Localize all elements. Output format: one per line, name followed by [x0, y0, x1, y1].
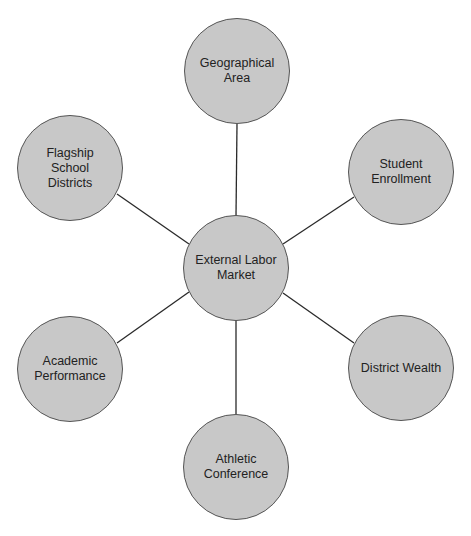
diagram-canvas: External Labor Market Geographical Area …	[0, 0, 471, 536]
node-athletic-conference: Athletic Conference	[183, 414, 289, 520]
node-flagship-school-districts: Flagship School Districts	[17, 115, 123, 221]
node-district-wealth: District Wealth	[348, 315, 454, 421]
hub-node-external-labor-market: External Labor Market	[183, 215, 289, 321]
node-label: Student Enrollment	[367, 157, 435, 187]
node-label: Academic Performance	[30, 354, 110, 384]
node-academic-performance: Academic Performance	[17, 316, 123, 422]
edge-academic-performance	[117, 292, 189, 343]
node-geographical-area: Geographical Area	[184, 18, 290, 124]
edge-district-wealth	[283, 293, 354, 343]
node-student-enrollment: Student Enrollment	[348, 119, 454, 225]
edge-flagship-school-districts	[117, 194, 189, 244]
node-label: Flagship School Districts	[42, 146, 97, 191]
node-label: Athletic Conference	[200, 452, 273, 482]
hub-label: External Labor Market	[191, 253, 280, 283]
edge-student-enrollment	[283, 197, 354, 244]
node-label: Geographical Area	[196, 56, 278, 86]
edge-geographical-area	[236, 124, 237, 216]
node-label: District Wealth	[357, 361, 445, 376]
